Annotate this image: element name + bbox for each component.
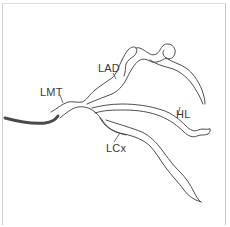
- hl-vessel-lower: [95, 110, 208, 137]
- hl-tip: [208, 129, 210, 134]
- label-hl: HL: [176, 109, 190, 120]
- catheter: [5, 116, 58, 123]
- label-lad: LAD: [98, 63, 120, 74]
- lcx-leader-line: [114, 133, 120, 142]
- label-lmt: LMT: [40, 87, 63, 98]
- lcx-vessel-upper: [106, 120, 201, 202]
- lad-vessel-inner: [122, 47, 137, 76]
- lad-distal-upper: [166, 58, 205, 104]
- lad-loop: [136, 44, 175, 59]
- hl-vessel-upper: [92, 104, 210, 131]
- coronary-artery-diagram: [0, 0, 230, 227]
- lcx-vessel-lower: [100, 118, 201, 202]
- label-lcx: LCx: [106, 143, 126, 154]
- lad-distal-lower: [150, 60, 203, 104]
- lmt-vessel-lower: [60, 107, 126, 135]
